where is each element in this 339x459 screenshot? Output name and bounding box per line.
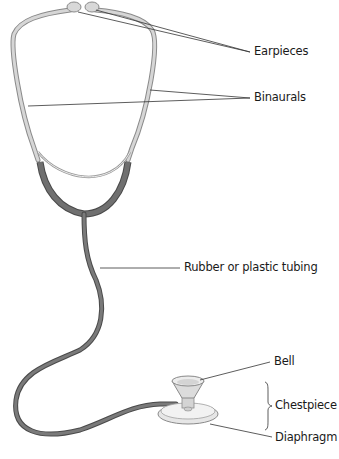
label-chestpiece: Chestpiece [275, 400, 337, 412]
label-earpieces: Earpieces [254, 46, 308, 58]
tubing [16, 162, 176, 434]
chestpiece [158, 376, 218, 424]
label-bell: Bell [274, 356, 295, 368]
stethoscope-diagram [0, 0, 339, 459]
label-diaphragm: Diaphragm [275, 432, 337, 444]
earpieces [67, 2, 99, 12]
binaurals [13, 10, 154, 177]
label-tubing: Rubber or plastic tubing [184, 262, 318, 274]
label-binaurals: Binaurals [254, 92, 306, 104]
